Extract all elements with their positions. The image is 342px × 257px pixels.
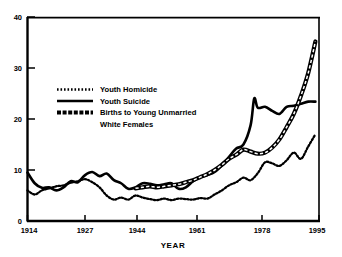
legend-label-youth-suicide: Youth Suicide bbox=[100, 97, 150, 106]
y-tick-label-20: 20 bbox=[14, 115, 22, 124]
chart-background bbox=[0, 0, 342, 257]
x-tick-label-1914: 1914 bbox=[21, 226, 39, 235]
legend-label-births-cont: White Females bbox=[100, 120, 153, 129]
y-tick-label-40: 40 bbox=[14, 13, 22, 22]
x-axis-title: YEAR bbox=[161, 241, 186, 250]
x-tick-label-1961: 1961 bbox=[189, 226, 206, 235]
chart-figure: 40 30 20 10 0 1914 1927 1944 1961 1978 1… bbox=[0, 0, 342, 257]
x-tick-label-1927: 1927 bbox=[77, 226, 94, 235]
y-tick-label-0: 0 bbox=[18, 217, 22, 226]
legend-label-youth-homicide: Youth Homicide bbox=[100, 85, 157, 94]
y-tick-label-30: 30 bbox=[14, 64, 22, 73]
x-tick-label-1944: 1944 bbox=[129, 226, 147, 235]
line-chart: 40 30 20 10 0 1914 1927 1944 1961 1978 1… bbox=[0, 0, 342, 257]
x-tick-label-1995: 1995 bbox=[309, 226, 326, 235]
y-tick-label-10: 10 bbox=[14, 166, 22, 175]
legend-label-births: Births to Young Unmarried bbox=[100, 108, 197, 117]
x-tick-label-1978: 1978 bbox=[254, 226, 271, 235]
